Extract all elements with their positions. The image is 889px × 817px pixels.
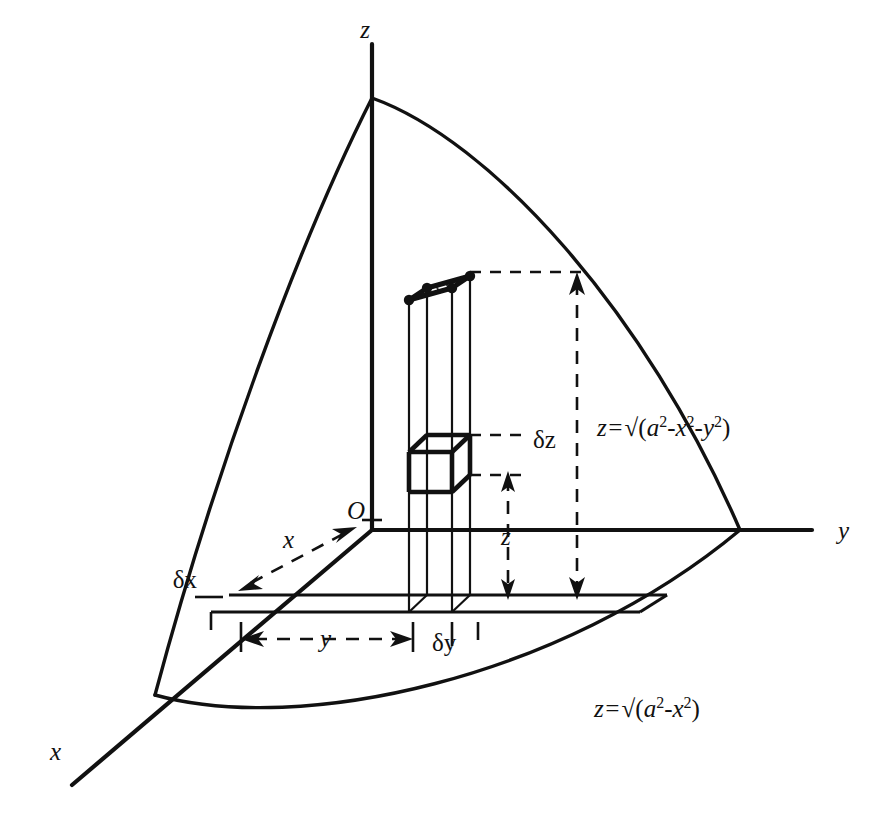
dim-label-delta-y: δy [432,629,457,656]
dim-label-x: x [282,526,294,553]
formula1-close: ) [722,414,730,442]
sphere-arc-xz-plane [155,98,372,695]
hatched-surface-patch [409,276,470,300]
formula1-lhs: z= [596,414,624,441]
axis-label-x: x [49,738,61,765]
cube-top-right-edge [452,435,470,452]
formula2-term-x: x [672,695,684,722]
dim-label-z: z [500,523,511,550]
formula1-term-y: y [700,414,715,441]
column-foot-right [452,595,470,612]
formula2-close: ) [692,695,700,723]
cube-bottom-right-edge [452,475,470,492]
dim-label-y: y [317,625,332,652]
cap-corner-dot-c [447,283,457,293]
formula1-minus2: - [695,414,703,441]
formula1-term-a: a [647,414,660,441]
formula2-sup-x: 2 [684,694,692,711]
axis-label-z: z [359,16,370,43]
axis-label-y: y [835,517,850,544]
formula-base-circle: z=√(a2-x2) [593,694,700,723]
diagram-root: z y x O x y z δx δy δz z=√(a2-x2-y2) z=√… [0,0,889,817]
cube-top-left-edge [409,435,427,452]
formula2-open: ( [635,695,643,723]
origin-label: O [347,497,365,524]
svg-text:z=√(a2-x2-y2): z=√(a2-x2-y2) [596,413,730,442]
formula-sphere-surface: z=√(a2-x2-y2) [596,413,730,442]
formula1-sup-y: 2 [714,413,722,430]
formula1-minus1: - [667,414,675,441]
axis-x [72,530,372,785]
dim-label-delta-z: δz [533,426,556,453]
dim-x-arrow-upper [332,527,357,543]
formula2-term-a: a [644,695,657,722]
formula2-sup-a: 2 [656,694,664,711]
svg-text:z=√(a2-x2): z=√(a2-x2) [593,694,700,723]
cap-corner-dot-a [422,283,432,293]
formula1-open: ( [638,414,646,442]
octant-sphere-figure: z y x O x y z δx δy δz z=√(a2-x2-y2) z=√… [0,0,889,817]
formula1-radical: √ [625,414,639,441]
formula1-term-x: x [675,414,687,441]
column-foot-left [409,595,427,612]
dim-label-delta-x: δx [173,566,198,593]
cap-corner-dot-d [404,295,414,305]
formula2-minus1: - [664,695,672,722]
base-quarter-circle [155,530,740,708]
formula2-radical: √ [622,695,636,722]
dim-x-line [251,533,345,583]
formula1-sup-a: 2 [659,413,667,430]
formula2-lhs: z= [593,695,621,722]
formula1-sup-x: 2 [687,413,695,430]
